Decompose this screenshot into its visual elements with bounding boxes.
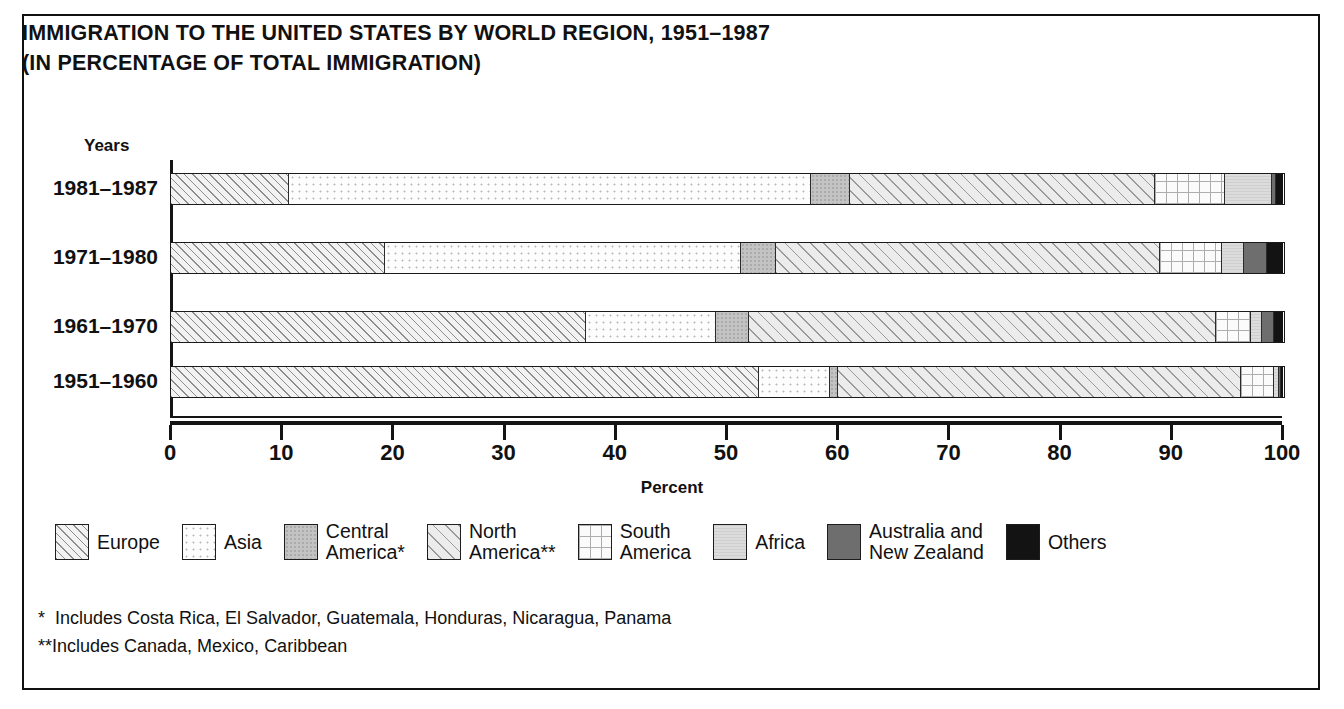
footnotes: * Includes Costa Rica, El Salvador, Guat…: [38, 604, 1138, 660]
legend-label: Africa: [755, 532, 805, 553]
x-tick: [725, 425, 728, 440]
legend-label: Central America*: [326, 521, 405, 563]
x-tick-label: 50: [714, 440, 738, 466]
legend-swatch-north-icon: [427, 524, 461, 560]
x-tick-label: 0: [164, 440, 176, 466]
x-tick-label: 40: [603, 440, 627, 466]
bar-segment-africa: [1222, 243, 1244, 273]
legend-swatch-africa-icon: [713, 524, 747, 560]
bar-segment-australia-new-zealand: [1244, 243, 1267, 273]
y-axis-label: 1951–1960: [22, 369, 158, 393]
bar-segment-central-america: [811, 174, 850, 204]
legend-label: North America**: [469, 521, 556, 563]
x-tick: [836, 425, 839, 440]
legend-swatch-australia-icon: [827, 524, 861, 560]
x-tick: [280, 425, 283, 440]
legend-swatch-others-icon: [1006, 524, 1040, 560]
x-tick: [1281, 425, 1284, 440]
x-tick: [503, 425, 506, 440]
bar-segment-others: [1267, 243, 1283, 273]
x-tick-label: 80: [1047, 440, 1071, 466]
y-axis-label: 1981–1987: [22, 176, 158, 200]
bar-segment-africa: [1251, 312, 1262, 342]
bar-segment-africa: [1225, 174, 1272, 204]
bar-segment-central-america: [741, 243, 775, 273]
legend-item-others[interactable]: Others: [1006, 524, 1107, 560]
x-tick: [1059, 425, 1062, 440]
legend-item-europe[interactable]: Europe: [55, 524, 160, 560]
bar-segment-europe: [171, 174, 289, 204]
bar-1961-1970: [170, 311, 1285, 343]
bar-segment-europe: [171, 243, 385, 273]
bar-segment-north-america: [850, 174, 1155, 204]
legend-label: Others: [1048, 532, 1107, 553]
bar-1971-1980: [170, 242, 1285, 274]
legend-item-north[interactable]: North America**: [427, 521, 556, 563]
x-tick-label: 10: [269, 440, 293, 466]
x-tick: [169, 425, 172, 440]
bar-segment-others: [1276, 174, 1283, 204]
bar-segment-others: [1281, 367, 1283, 397]
bar-segment-north-america: [776, 243, 1160, 273]
footnote: **Includes Canada, Mexico, Caribbean: [38, 632, 1138, 660]
legend-item-asia[interactable]: Asia: [182, 524, 262, 560]
bar-segment-central-america: [830, 367, 838, 397]
bar-segment-europe: [171, 367, 759, 397]
x-tick-label: 60: [825, 440, 849, 466]
bar-segment-north-america: [749, 312, 1216, 342]
legend-item-central[interactable]: Central America*: [284, 521, 405, 563]
y-axis-label: 1971–1980: [22, 245, 158, 269]
bar-segment-south-america: [1216, 312, 1250, 342]
bar-segment-central-america: [716, 312, 749, 342]
x-tick-label: 70: [936, 440, 960, 466]
legend-item-south[interactable]: South America: [578, 521, 692, 563]
legend-item-africa[interactable]: Africa: [713, 524, 805, 560]
legend-label: Asia: [224, 532, 262, 553]
x-tick-label: 30: [491, 440, 515, 466]
legend-swatch-europe-icon: [55, 524, 89, 560]
footnote: * Includes Costa Rica, El Salvador, Guat…: [38, 604, 1138, 632]
bar-segment-others: [1274, 312, 1283, 342]
bar-1951-1960: [170, 366, 1285, 398]
legend-swatch-central-icon: [284, 524, 318, 560]
legend-label: Australia and New Zealand: [869, 521, 984, 563]
legend-label: South America: [620, 521, 692, 563]
bar-segment-asia: [759, 367, 830, 397]
bar-segment-asia: [586, 312, 716, 342]
bar-segment-south-america: [1241, 367, 1274, 397]
x-tick: [947, 425, 950, 440]
legend-item-australia[interactable]: Australia and New Zealand: [827, 521, 984, 563]
bar-segment-south-america: [1160, 243, 1222, 273]
x-tick: [614, 425, 617, 440]
bar-segment-south-america: [1155, 174, 1225, 204]
chart-plot-area: Years 0102030405060708090100 Percent 198…: [0, 0, 1344, 709]
chart-legend: EuropeAsiaCentral America*North America*…: [55, 513, 1295, 571]
y-axis-label: 1961–1970: [22, 314, 158, 338]
x-tick: [391, 425, 394, 440]
x-tick: [1170, 425, 1173, 440]
bar-1981-1987: [170, 173, 1285, 205]
bar-segment-asia: [385, 243, 742, 273]
x-axis-title: Percent: [0, 478, 1344, 498]
bar-segment-asia: [289, 174, 812, 204]
y-axis-header: Years: [84, 136, 129, 156]
legend-swatch-south-icon: [578, 524, 612, 560]
x-tick-label: 100: [1264, 440, 1301, 466]
bar-segment-australia-new-zealand: [1262, 312, 1274, 342]
legend-label: Europe: [97, 532, 160, 553]
x-tick-label: 90: [1159, 440, 1183, 466]
bar-segment-europe: [171, 312, 586, 342]
x-tick-label: 20: [380, 440, 404, 466]
legend-swatch-asia-icon: [182, 524, 216, 560]
bar-segment-north-america: [838, 367, 1241, 397]
